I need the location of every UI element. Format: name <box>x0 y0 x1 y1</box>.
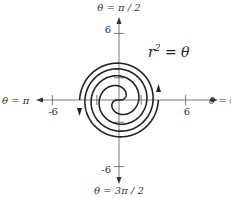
direction-label-right: θ = 0 <box>209 95 231 106</box>
x-tick-label-neg6: -6 <box>48 106 58 117</box>
equation-label: r2 = θ <box>148 43 190 60</box>
y-tick-label-6: 6 <box>105 24 111 35</box>
direction-label-left: θ = π <box>2 95 30 106</box>
y-axis-bottom-arrow <box>117 177 122 184</box>
direction-label-bottom: θ = 3π / 2 <box>94 185 144 196</box>
y-tick-label-neg6: -6 <box>101 164 111 175</box>
spiral-arrow-down-icon <box>77 108 82 116</box>
polar-spiral-plot: -6 6 6 -6 θ = π / 2 θ = 3π / 2 θ = π θ =… <box>0 0 231 198</box>
x-tick-label-6: 6 <box>184 106 190 117</box>
spiral-arrow-up-icon <box>156 84 161 92</box>
direction-label-top: θ = π / 2 <box>97 2 140 13</box>
x-axis-left-arrow <box>36 98 43 103</box>
equation-rest: = θ <box>160 44 190 60</box>
y-axis-top-arrow <box>117 17 122 24</box>
